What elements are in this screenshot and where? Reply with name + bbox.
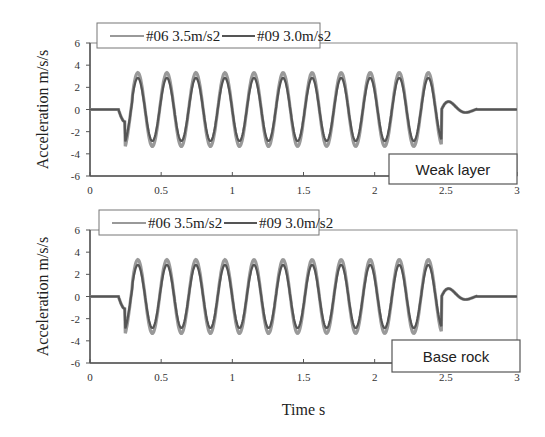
x-axis-label: Time s xyxy=(282,401,325,418)
y-tick-label: 0 xyxy=(75,104,81,116)
acceleration-charts: 6420-2-4-600.511.522.53#06 3.5m/s2#09 3.… xyxy=(0,0,545,437)
x-tick-label: 2 xyxy=(372,184,378,196)
x-tick-label: 0 xyxy=(87,184,93,196)
y-tick-label: 2 xyxy=(75,268,81,280)
series-line xyxy=(90,73,517,147)
x-tick-label: 1.5 xyxy=(297,184,311,196)
series-line xyxy=(90,260,517,334)
y-axis-label: Acceleration m/s/s xyxy=(34,50,51,170)
y-tick-label: -6 xyxy=(71,357,81,369)
y-tick-label: 4 xyxy=(75,246,81,258)
annotation-label: Weak layer xyxy=(416,161,491,178)
y-axis-label: Acceleration m/s/s xyxy=(34,237,51,357)
y-tick-label: 2 xyxy=(75,81,81,93)
x-tick-label: 1 xyxy=(230,371,236,383)
x-tick-label: 2.5 xyxy=(439,371,453,383)
annotation-label: Base rock xyxy=(423,348,490,365)
x-tick-label: 2 xyxy=(372,371,378,383)
y-tick-label: -2 xyxy=(71,313,80,325)
x-tick-label: 0.5 xyxy=(154,371,168,383)
y-tick-label: -4 xyxy=(71,148,81,160)
legend-label: #06 3.5m/s2 xyxy=(146,28,220,44)
x-tick-label: 1.5 xyxy=(297,371,311,383)
x-tick-label: 0 xyxy=(87,371,93,383)
x-tick-label: 3 xyxy=(514,184,520,196)
legend-label: #06 3.5m/s2 xyxy=(148,215,222,231)
y-tick-label: 0 xyxy=(75,291,81,303)
x-tick-label: 2.5 xyxy=(439,184,453,196)
y-tick-label: 4 xyxy=(75,59,81,71)
legend-label: #09 3.0m/s2 xyxy=(257,28,331,44)
x-tick-label: 1 xyxy=(230,184,236,196)
y-tick-label: -4 xyxy=(71,335,81,347)
y-tick-label: 6 xyxy=(75,224,81,236)
y-tick-label: 6 xyxy=(75,37,81,49)
y-tick-label: -6 xyxy=(71,170,81,182)
x-tick-label: 3 xyxy=(514,371,520,383)
legend-label: #09 3.0m/s2 xyxy=(259,215,333,231)
y-tick-label: -2 xyxy=(71,126,80,138)
x-tick-label: 0.5 xyxy=(154,184,168,196)
